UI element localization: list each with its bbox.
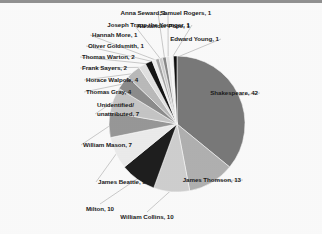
pie-slice-label: Oliver Goldsmith, 1 (88, 42, 144, 50)
pie-slice-label: Horace Walpole, 4 (86, 76, 138, 84)
pie-chart-figure: Shakespeare, 42James Thomson, 13William … (0, 0, 322, 234)
pie-slice-label: Edward Young, 1 (170, 35, 219, 43)
pie-slice-label: Milton, 10 (70, 205, 130, 213)
pie-slice-label: Anna Seward, 1 (121, 9, 166, 17)
pie-slice-label: Samuel Rogers, 1 (160, 9, 211, 17)
pie-slice-label: James Beattie, 9 (98, 178, 146, 186)
pie-chart-svg (0, 0, 322, 234)
pie-slice-label: William Mason, 7 (83, 141, 132, 149)
pie-slice-label: Shakespeare, 42 (210, 89, 258, 97)
pie-slice-label: Thomas Gray, 4 (86, 88, 131, 96)
pie-slice-label: Frank Sayers, 2 (82, 64, 127, 72)
label-leader-line (158, 13, 165, 59)
pie-slice-label: William Collins, 10 (117, 213, 177, 221)
pie-slice-label: Unidentified/ (97, 101, 134, 109)
pie-slice-label: unattributed, 7 (97, 110, 139, 118)
pie-slice-label: Joseph Trapp the Younger, 1 (107, 21, 190, 29)
pie-slice-label: James Thomson, 13 (183, 176, 241, 184)
label-leader-line (147, 190, 172, 212)
pie-slice-label: Thomas Warton, 2 (82, 53, 135, 61)
pie-slice-label: Hannah More, 1 (92, 31, 137, 39)
